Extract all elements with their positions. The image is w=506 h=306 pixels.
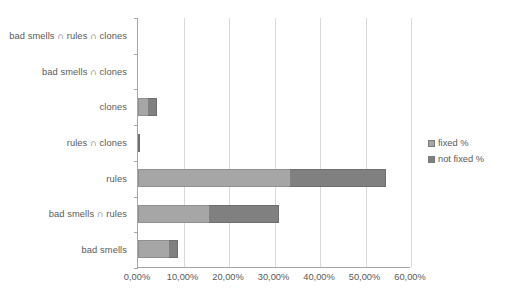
x-axis-tick-label: 40,00% [303,272,335,282]
stacked-bar [138,240,178,258]
bar-segment-not-fixed [148,98,157,116]
category-label: bad smells ∩ rules ∩ clones [0,18,133,54]
x-axis-tick-label: 60,00% [394,272,426,282]
x-axis-tick-label: 10,00% [167,272,199,282]
bar-rows [138,18,410,267]
bar-row [138,89,410,125]
y-axis-tick [134,268,138,269]
plot-area [137,18,410,268]
legend-item[interactable]: not fixed % [428,154,484,164]
category-label: bad smells ∩ clones [0,54,133,90]
y-axis-category-labels: bad smells ∩ rules ∩ clonesbad smells ∩ … [0,18,133,268]
legend-swatch-icon [428,140,435,147]
stacked-bar [138,134,140,152]
category-label: bad smells [0,232,133,268]
x-axis-tick-labels: 0,00%10,00%20,00%30,00%40,00%50,00%60,00… [137,272,410,288]
chart-legend: fixed %not fixed % [428,138,484,164]
bar-segment-not-fixed [209,205,280,223]
bar-row [138,196,410,232]
category-label: bad smells ∩ rules [0,197,133,233]
legend-label: not fixed % [438,154,484,164]
bar-segment-not-fixed [169,240,178,258]
bar-segment-not-fixed [290,169,386,187]
bar-row [138,231,410,267]
x-axis-tick-label: 50,00% [349,272,381,282]
x-axis-tick-label: 30,00% [258,272,290,282]
bar-segment-fixed [138,134,140,152]
stacked-bar-chart: bad smells ∩ rules ∩ clonesbad smells ∩ … [0,0,506,306]
x-axis-tick-label: 0,00% [124,272,150,282]
bar-segment-fixed [138,169,290,187]
category-label: clones [0,89,133,125]
stacked-bar [138,169,386,187]
bar-segment-fixed [138,205,209,223]
stacked-bar [138,98,157,116]
x-axis-tick-label: 20,00% [212,272,244,282]
bar-segment-fixed [138,98,148,116]
gridline [411,18,412,267]
bar-row [138,125,410,161]
bar-row [138,18,410,54]
legend-item[interactable]: fixed % [428,138,484,148]
stacked-bar [138,205,279,223]
bar-segment-fixed [138,240,169,258]
bar-row [138,54,410,90]
legend-label: fixed % [438,138,469,148]
bar-row [138,160,410,196]
legend-swatch-icon [428,156,435,163]
category-label: rules [0,161,133,197]
category-label: rules ∩ clones [0,125,133,161]
